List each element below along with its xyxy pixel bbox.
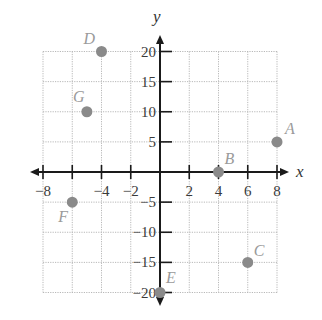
x-tick-label: 2	[186, 183, 194, 199]
point-label: A	[284, 120, 295, 137]
point-g: G	[73, 88, 93, 118]
x-tick-label: 8	[273, 183, 281, 199]
data-points: ABCDEFG	[57, 30, 295, 299]
x-axis-arrow-left-icon	[30, 168, 39, 176]
point-marker	[213, 167, 224, 178]
point-marker	[242, 257, 253, 268]
point-c: C	[242, 242, 265, 268]
point-label: E	[165, 269, 176, 286]
x-tick-label: −8	[35, 183, 51, 199]
point-label: C	[254, 242, 265, 259]
point-label: G	[73, 88, 85, 105]
point-marker	[272, 136, 283, 147]
point-b: B	[213, 150, 235, 178]
y-tick-label: −10	[133, 224, 156, 240]
x-axis-title: x	[295, 162, 304, 181]
y-tick-label: 20	[141, 44, 156, 60]
y-tick-label: 15	[141, 74, 156, 90]
point-marker	[67, 197, 78, 208]
point-label: B	[225, 150, 235, 167]
point-d: D	[83, 30, 108, 58]
y-tick-label: 10	[141, 104, 156, 120]
point-label: D	[83, 30, 96, 47]
y-axis-arrow-up-icon	[156, 35, 164, 44]
y-tick-label: −20	[133, 285, 156, 301]
y-tick-label: 5	[149, 134, 157, 150]
point-marker	[96, 46, 107, 57]
y-tick-label: −15	[133, 254, 156, 270]
point-marker	[155, 287, 166, 298]
x-tick-label: 6	[244, 183, 252, 199]
point-marker	[81, 106, 92, 117]
point-a: A	[272, 120, 296, 148]
y-axis-arrow-down-icon	[156, 297, 164, 306]
x-tick-label: −4	[94, 183, 110, 199]
y-tick-label: −5	[140, 194, 156, 210]
point-f: F	[57, 197, 78, 226]
x-tick-label: 4	[215, 183, 223, 199]
x-axis-arrow-right-icon	[280, 168, 289, 176]
coordinate-plane: −8−4−224682015105−5−10−15−20 ABCDEFG x y	[0, 0, 322, 320]
point-label: F	[57, 208, 68, 225]
x-tick-label: −2	[123, 183, 139, 199]
y-axis-title: y	[151, 7, 161, 26]
point-e: E	[155, 269, 177, 299]
